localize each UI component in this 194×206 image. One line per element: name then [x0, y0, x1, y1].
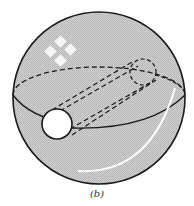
- front-hole: [42, 109, 72, 139]
- sphere-diagram: [0, 0, 194, 206]
- figure-caption: (b): [0, 188, 194, 199]
- sphere-body: [13, 12, 185, 184]
